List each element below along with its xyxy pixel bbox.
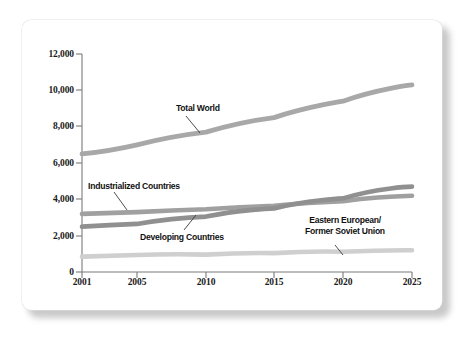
figure-root: 12,000 10,000 8,000 6,000 4,000 2,000 0 … [0, 0, 470, 339]
series-label-developing: Developing Countries [140, 232, 224, 243]
y-tick-10000: 10,000 [28, 85, 74, 97]
x-tick-2010: 2010 [183, 277, 229, 287]
plot-area: 12,000 10,000 8,000 6,000 4,000 2,000 0 … [0, 0, 470, 339]
x-tick-2020: 2020 [320, 277, 366, 287]
y-tick-4000: 4,000 [28, 194, 74, 206]
y-tick-12000: 12,000 [28, 49, 74, 61]
series-line-eefsu [82, 250, 412, 256]
series-line-total-world [82, 85, 412, 154]
y-tick-label: 10,000 [28, 85, 74, 95]
leader-industrialized [114, 192, 127, 210]
x-tick-2005: 2005 [114, 277, 160, 287]
y-tick-label: 8,000 [28, 121, 74, 131]
x-tick-2001: 2001 [59, 277, 105, 287]
y-tick-label: 4,000 [28, 194, 74, 204]
x-tick-2015: 2015 [251, 277, 297, 287]
y-tick-label: 6,000 [28, 158, 74, 168]
y-axis-ticks [76, 54, 82, 272]
y-tick-label: 0 [28, 267, 74, 277]
series-label-industrialized: Industrialized Countries [88, 181, 180, 192]
y-tick-6000: 6,000 [28, 158, 74, 170]
y-tick-2000: 2,000 [28, 231, 74, 243]
x-tick-2025: 2025 [389, 277, 435, 287]
series-label-total-world: Total World [176, 103, 220, 114]
y-tick-label: 2,000 [28, 231, 74, 241]
series-label-eefsu-line2: Former Soviet Union [290, 226, 400, 237]
series-label-eefsu-line1: Eastern European/ [290, 215, 400, 226]
leader-total-world [186, 116, 200, 133]
series-label-eefsu: Eastern European/ Former Soviet Union [290, 215, 400, 236]
y-tick-label: 12,000 [28, 49, 74, 59]
y-tick-8000: 8,000 [28, 121, 74, 133]
